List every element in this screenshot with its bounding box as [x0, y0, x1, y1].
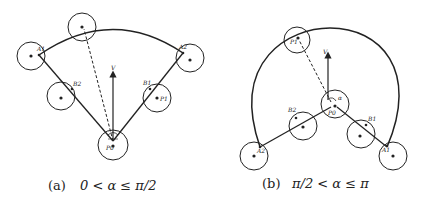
label-a2: A2 [256, 147, 265, 154]
label-v: V [111, 64, 116, 71]
label-a1: A1 [36, 45, 45, 52]
label-p0: P0 [105, 144, 114, 151]
label-a1: A1 [381, 146, 390, 153]
leg-right [337, 107, 387, 147]
formation-diagram: A1 A2 B2 B1 P1 V P0 (a) 0 < α ≤ π/2 [0, 0, 422, 206]
caption-a-tag: (a) [48, 178, 66, 193]
robot-circle-b1 [47, 82, 75, 110]
label-p1: P1 [289, 38, 298, 45]
label-p1: P1 [159, 95, 168, 102]
leg-left [260, 107, 331, 147]
label-b2: B2 [287, 106, 296, 113]
label-b1: B1 [142, 79, 151, 86]
label-b1: B1 [367, 115, 376, 122]
label-b2: B2 [72, 80, 81, 87]
caption-b-tag: (b) [262, 176, 280, 191]
label-alpha: α [338, 94, 342, 101]
leg-right [113, 53, 183, 141]
caption-b-condition: π/2 < α ≤ π [291, 176, 369, 191]
label-a2: A2 [178, 43, 187, 50]
formation-arc-large [252, 28, 399, 147]
caption-a-condition: 0 < α ≤ π/2 [80, 178, 157, 193]
label-v: V [323, 48, 328, 55]
label-p0: P0 [327, 109, 336, 116]
angle-arc [328, 98, 336, 101]
leg-left [39, 55, 113, 141]
panel-a [17, 13, 204, 160]
formation-arc [39, 29, 183, 55]
